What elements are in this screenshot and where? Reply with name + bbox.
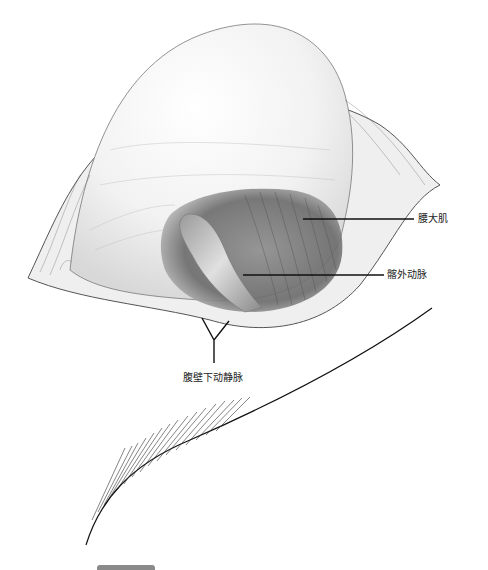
body-contour (86, 308, 432, 545)
label-external-iliac-artery: 髂外动脉 (387, 269, 427, 281)
label-inferior-epigastric-vessels: 腹壁下动静脉 (0, 372, 426, 384)
anatomical-illustration (0, 0, 488, 570)
retroperitoneal-cavity (161, 189, 343, 312)
hatch-lines (92, 397, 250, 520)
epigastric-leader-y (202, 318, 229, 363)
bottom-edge-bar (97, 565, 155, 570)
label-psoas-major: 腰大肌 (418, 213, 448, 225)
